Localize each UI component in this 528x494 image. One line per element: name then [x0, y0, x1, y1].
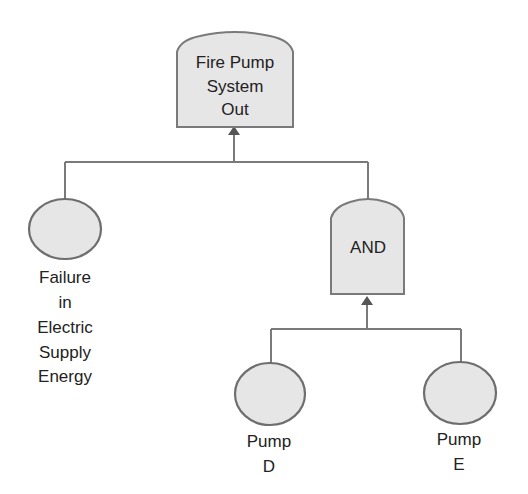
electric-supply-label-line-3: Electric: [37, 318, 93, 337]
pump-d-label-line-1: Pump: [247, 432, 291, 451]
pump-d-event-node[interactable]: Pump D: [235, 363, 305, 476]
pump-e-label-line-1: Pump: [437, 430, 481, 449]
electric-supply-label-line-4: Supply: [39, 343, 91, 362]
pump-d-event-circle: [235, 363, 305, 425]
and-gate-label: AND: [350, 238, 386, 257]
electric-supply-label-line-2: in: [58, 293, 71, 312]
top-level-connectors: [65, 126, 368, 199]
top-event-label-line-1: Fire Pump: [196, 53, 274, 72]
electric-supply-label-line-5: Energy: [38, 367, 92, 386]
top-event-node[interactable]: Fire Pump System Out: [177, 32, 293, 127]
fault-tree-diagram: Fire Pump System Out Failure in Electric…: [0, 0, 528, 494]
electric-supply-event-circle: [29, 199, 101, 259]
top-event-label-line-3: Out: [221, 100, 249, 119]
pump-e-label-line-2: E: [453, 455, 464, 474]
top-event-label-line-2: System: [207, 77, 264, 96]
and-gate-arrow-icon: [361, 296, 373, 305]
pump-e-event-circle: [424, 362, 496, 424]
electric-supply-event-node[interactable]: Failure in Electric Supply Energy: [29, 199, 101, 386]
and-level-connectors: [271, 296, 461, 363]
pump-e-event-node[interactable]: Pump E: [424, 362, 496, 474]
and-gate-node[interactable]: AND: [331, 199, 404, 294]
electric-supply-label-line-1: Failure: [39, 268, 91, 287]
pump-d-label-line-2: D: [263, 457, 275, 476]
